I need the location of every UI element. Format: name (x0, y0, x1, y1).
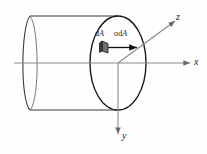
dA-front-face (102, 41, 108, 53)
area-element-dA (100, 41, 109, 53)
z-axis-label: z (176, 12, 180, 22)
area-element-label-A: A (99, 29, 104, 38)
z-axis-line (118, 21, 175, 63)
force-vector-label: σdA (114, 30, 127, 38)
cylinder-axes-svg (0, 0, 207, 154)
stress-diagram-figure: z x y dA σdA (0, 0, 207, 154)
y-axis-label: y (122, 131, 126, 141)
x-axis-label: x (194, 57, 198, 67)
dA-side-face (100, 41, 103, 53)
area-element-label: dA (95, 30, 104, 38)
force-vector-label-A: A (122, 29, 127, 38)
